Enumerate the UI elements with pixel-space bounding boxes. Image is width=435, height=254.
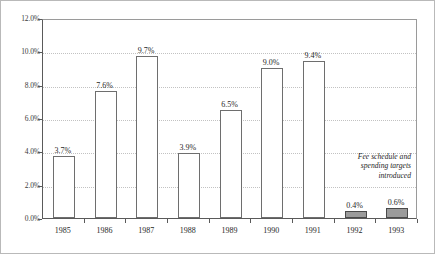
bar-1986 (95, 91, 117, 218)
y-axis-tick-label: 2.0% (0, 182, 40, 190)
bar-value-1990: 9.0% (249, 58, 293, 67)
annotation-line-3: introduced (358, 171, 411, 180)
x-axis-tick (209, 219, 210, 223)
bar-1990 (261, 68, 283, 218)
bar-value-1989: 6.5% (208, 100, 252, 109)
y-axis-tick (38, 219, 42, 220)
bar-value-1993: 0.6% (374, 198, 418, 207)
y-axis-tick-label: 12.0% (0, 15, 40, 23)
bar-chart-figure: 0.0%2.0%4.0%6.0%8.0%10.0%12.0% 3.7%7.6%9… (0, 0, 435, 254)
bar-1991 (303, 61, 325, 218)
fee-schedule-note: Fee schedule andspending targetsintroduc… (358, 152, 411, 180)
x-axis-tick (167, 219, 168, 223)
gridline (43, 53, 416, 54)
x-axis-label-1989: 1989 (208, 226, 252, 236)
y-axis-tick-label: 0.0% (0, 215, 40, 223)
bar-value-1985: 3.7% (41, 146, 85, 155)
x-axis-label-1987: 1987 (124, 226, 168, 236)
bar-1985 (53, 156, 75, 218)
x-axis-tick (292, 219, 293, 223)
annotation-line-1: Fee schedule and (358, 152, 411, 161)
x-axis-label-1986: 1986 (83, 226, 127, 236)
y-axis-tick-label: 6.0% (0, 115, 40, 123)
x-axis-tick (334, 219, 335, 223)
plot-area (42, 19, 417, 219)
annotation-line-2: spending targets (358, 161, 411, 170)
bar-1987 (136, 56, 158, 218)
x-axis-label-1992: 1992 (333, 226, 377, 236)
y-axis-tick-label: 8.0% (0, 82, 40, 90)
x-axis-tick (417, 219, 418, 223)
x-axis-label-1988: 1988 (166, 226, 210, 236)
x-axis-label-1990: 1990 (249, 226, 293, 236)
bar-1993 (386, 208, 408, 218)
x-axis-tick (250, 219, 251, 223)
x-axis-label-1993: 1993 (374, 226, 418, 236)
x-axis-label-1991: 1991 (291, 226, 335, 236)
x-axis-label-1985: 1985 (41, 226, 85, 236)
bar-1992 (345, 211, 367, 218)
bar-value-1987: 9.7% (124, 46, 168, 55)
y-axis-tick-label: 10.0% (0, 48, 40, 56)
x-axis-tick (375, 219, 376, 223)
bar-value-1986: 7.6% (83, 81, 127, 90)
x-axis-tick (125, 219, 126, 223)
bar-value-1992: 0.4% (333, 201, 377, 210)
x-axis-tick (84, 219, 85, 223)
bar-value-1991: 9.4% (291, 51, 335, 60)
bar-1988 (178, 153, 200, 218)
bar-1989 (220, 110, 242, 218)
y-axis-tick-label: 4.0% (0, 148, 40, 156)
bar-value-1988: 3.9% (166, 143, 210, 152)
